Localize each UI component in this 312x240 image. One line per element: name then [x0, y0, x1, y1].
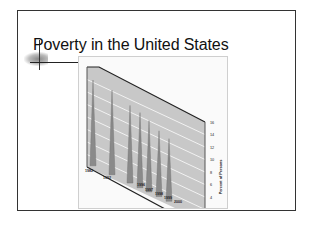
x-tick-label: 1997: [145, 188, 153, 192]
y-tick-label: 10: [210, 158, 214, 162]
chart-image-frame: 1982199219961997199819992000024681012141…: [78, 56, 228, 209]
y-tick-label: 12: [210, 146, 214, 150]
y-tick-label: 14: [210, 133, 214, 137]
x-tick-label: 1992: [103, 176, 111, 180]
title-underline: [30, 62, 80, 63]
x-tick-label: 1982: [85, 169, 93, 173]
slide-title: Poverty in the United States: [33, 36, 229, 54]
y-tick-label: 8: [210, 171, 212, 175]
x-tick-label: 2000: [174, 200, 182, 204]
y-tick-label: 16: [210, 121, 214, 125]
y-axis-label: Percent of Persons: [219, 160, 223, 195]
y-tick-label: 6: [210, 183, 212, 187]
x-tick-label: 1998: [155, 192, 163, 196]
x-tick-label: 1999: [164, 196, 172, 200]
poverty-spike-chart: 1982199219961997199819992000024681012141…: [79, 57, 227, 208]
y-tick-label: 4: [210, 196, 212, 200]
decorative-cross-mark: [24, 52, 48, 66]
x-tick-label: 1996: [137, 183, 145, 187]
